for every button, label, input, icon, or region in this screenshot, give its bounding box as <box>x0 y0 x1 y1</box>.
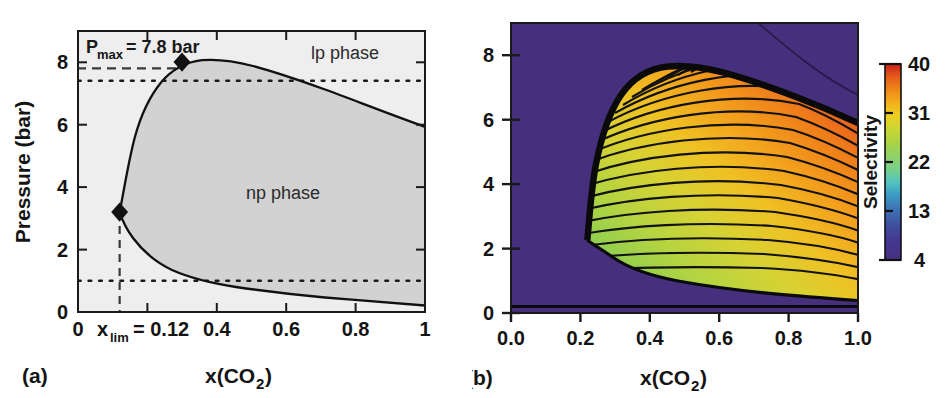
panel-a-xlabel-close: ) <box>265 364 272 387</box>
panel-a: 0 2 4 6 8 0 0.4 0.6 0.8 1 x lim = 0.12 P… <box>0 0 472 398</box>
panel-a-xlabel-main: x(CO <box>205 364 255 387</box>
panel-b-xtick-02: 0.2 <box>566 327 594 349</box>
panel-b-xtick-00: 0.0 <box>497 327 525 349</box>
panel-b-xtick-04: 0.4 <box>636 327 665 349</box>
panel-b-xtick-08: 0.8 <box>775 327 803 349</box>
colorbar-tick-31: 31 <box>908 102 930 124</box>
panel-b-ytick-6: 6 <box>483 109 494 131</box>
colorbar-tick-40: 40 <box>908 53 930 75</box>
panel-a-xtick-1: 1 <box>419 318 430 340</box>
panel-a-label: (a) <box>22 364 48 387</box>
panel-a-xtick-08: 0.8 <box>342 318 370 340</box>
panel-b-label: (b) <box>472 366 493 389</box>
xlim-symbol: x <box>97 318 108 340</box>
panel-a-xlabel-sub: 2 <box>256 375 264 392</box>
colorbar-tick-13: 13 <box>908 200 930 222</box>
colorbar-title: Selectivity <box>860 115 881 209</box>
pmax-subscript: max <box>97 47 124 62</box>
panel-a-xtick-0: 0 <box>72 318 83 340</box>
colorbar: 40 31 22 13 4 Selectivity <box>860 53 930 271</box>
lp-phase-label: lp phase <box>311 43 379 63</box>
panel-b-ytick-4: 4 <box>483 173 495 195</box>
panel-a-ytick-0: 0 <box>57 301 68 323</box>
panel-a-ylabel: Pressure (bar) <box>11 101 34 243</box>
panel-a-ytick-4: 4 <box>57 176 69 198</box>
panel-b: 0 2 4 6 8 0.0 0.2 0.4 0.6 0.8 1.0 Pressu… <box>472 0 945 398</box>
xlim-value: = 0.12 <box>133 318 189 340</box>
np-phase-label: np phase <box>246 183 320 203</box>
panel-b-xlabel-main: x(CO <box>640 366 690 389</box>
panel-b-xtick-10: 1.0 <box>844 327 872 349</box>
panel-a-ytick-2: 2 <box>57 239 68 261</box>
panel-b-ytick-8: 8 <box>483 44 494 66</box>
colorbar-tick-22: 22 <box>908 151 930 173</box>
panel-a-ytick-6: 6 <box>57 114 68 136</box>
xlim-subscript: lim <box>110 330 129 345</box>
panel-b-xlabel-sub: 2 <box>691 377 699 394</box>
panel-b-ytick-0: 0 <box>483 302 494 324</box>
colorbar-tick-4: 4 <box>914 249 926 271</box>
panel-a-ytick-8: 8 <box>57 51 68 73</box>
panel-a-xlabel: x(CO 2 ) <box>205 364 272 392</box>
panel-b-xlabel-close: ) <box>700 366 707 389</box>
panel-b-xlabel: x(CO 2 ) <box>640 366 707 394</box>
panel-b-x-ticks <box>511 313 858 322</box>
panel-a-xtick-06: 0.6 <box>272 318 300 340</box>
xlim-annotation: x lim = 0.12 <box>97 318 189 345</box>
figure-container: 0 2 4 6 8 0 0.4 0.6 0.8 1 x lim = 0.12 P… <box>0 0 945 398</box>
panel-b-ytick-2: 2 <box>483 238 494 260</box>
pmax-value: = 7.8 bar <box>126 37 200 57</box>
panel-a-xtick-04: 0.4 <box>203 318 232 340</box>
panel-b-xtick-06: 0.6 <box>705 327 733 349</box>
